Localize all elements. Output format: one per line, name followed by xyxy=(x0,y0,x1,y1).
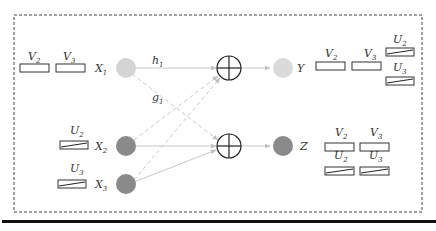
diagram-canvas: h1 g1 X1 X2 X3 V2 V3 U2 U3 Y Z V2 V3 U2 xyxy=(0,0,436,231)
box-u2-y xyxy=(386,48,414,56)
node-x2 xyxy=(116,136,136,156)
box-v2-x1 xyxy=(20,64,49,72)
box-label-v2-y: V2 xyxy=(325,47,338,62)
box-u2-z xyxy=(325,167,354,175)
label-y: Y xyxy=(297,62,306,75)
label-x2: X2 xyxy=(94,140,108,155)
box-label-u2-y: U2 xyxy=(393,33,407,48)
label-z: Z xyxy=(299,140,308,153)
box-label-u3-y: U3 xyxy=(393,61,407,76)
label-x1: X1 xyxy=(94,62,107,77)
edges xyxy=(132,68,270,182)
sum-operator-top xyxy=(217,56,241,80)
box-label-v2-x1: V2 xyxy=(28,50,41,65)
sum-operator-bottom xyxy=(217,134,241,158)
box-label-u2-x2: U2 xyxy=(70,124,84,139)
edge-x1-sum-bottom xyxy=(132,74,218,140)
edge-label-h1: h1 xyxy=(152,54,164,69)
box-u3-z xyxy=(360,167,389,175)
box-v3-y xyxy=(352,62,381,70)
label-x3: X3 xyxy=(94,178,108,193)
node-z xyxy=(273,136,293,156)
box-u3-y xyxy=(386,77,414,85)
box-v3-x1 xyxy=(56,64,85,72)
box-label-u3-x3: U3 xyxy=(70,162,84,177)
box-label-v3-x1: V3 xyxy=(63,50,76,65)
node-x1 xyxy=(116,58,136,78)
node-y xyxy=(273,58,293,78)
box-label-v3-z: V3 xyxy=(370,126,383,141)
edge-label-g1: g1 xyxy=(152,91,164,106)
box-label-v2-z: V2 xyxy=(335,126,348,141)
bottom-rule xyxy=(2,220,436,223)
box-label-v3-y: V3 xyxy=(364,47,377,62)
node-x3 xyxy=(116,174,136,194)
box-v2-y xyxy=(316,62,345,70)
box-u3-x3 xyxy=(58,180,86,188)
edge-x3-sum-bottom xyxy=(134,150,216,182)
box-u2-x2 xyxy=(60,141,88,149)
